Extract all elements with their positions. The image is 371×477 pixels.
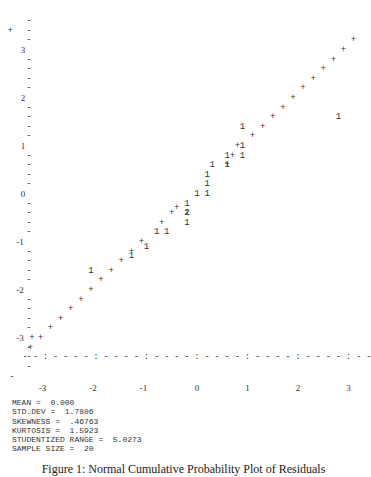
reference-plus-marker: + — [341, 46, 346, 55]
stat-skewness: SKEWNESS = .46763 — [12, 417, 142, 426]
y-tick-mark: - — [26, 26, 31, 35]
reference-plus-marker: + — [28, 343, 33, 352]
y-tick-mark: - — [9, 373, 14, 382]
residual-point-marker: 1 — [88, 266, 93, 275]
x-axis-dash: - — [83, 353, 88, 362]
reference-plus-marker: + — [300, 84, 305, 93]
x-axis-dash: - — [366, 353, 371, 362]
residual-point-marker: 1 — [154, 228, 159, 237]
y-tick-mark: - — [26, 314, 31, 323]
residual-point-marker: 1 — [204, 180, 209, 189]
x-axis-dash: - — [53, 353, 58, 362]
y-tick-mark: - — [26, 132, 31, 141]
y-tick-mark: - — [26, 209, 31, 218]
y-tick-mark: - — [26, 161, 31, 170]
reference-plus-marker: + — [29, 334, 34, 343]
reference-plus-marker: + — [7, 26, 12, 35]
residual-point-marker: 1 — [240, 122, 245, 131]
stat-kurtosis: KURTOSIS = 1.5923 — [12, 426, 142, 435]
x-axis-dash: - — [73, 353, 78, 362]
reference-plus-marker: + — [78, 295, 83, 304]
x-axis-dash: - — [285, 353, 290, 362]
x-axis-dash: - — [113, 353, 118, 362]
stat-std-dev: STD.DEV = 1.7806 — [12, 407, 142, 416]
x-axis-dash: - — [174, 353, 179, 362]
residual-point-marker: 1 — [225, 151, 230, 160]
reference-plus-marker: + — [260, 122, 265, 131]
stat-studentized-range: STUDENTIZED RANGE = 5.0273 — [12, 435, 142, 444]
y-tick-mark: - — [26, 228, 31, 237]
stat-mean: MEAN = 0.000 — [12, 398, 142, 407]
reference-plus-marker: + — [230, 151, 235, 160]
x-axis-dash: - — [33, 353, 38, 362]
x-axis-dash: - — [23, 353, 28, 362]
y-tick-mark: - — [26, 74, 31, 83]
x-tick-label: 3 — [346, 383, 351, 393]
y-tick-mark: - — [26, 113, 31, 122]
y-tick-mark: - — [26, 199, 31, 208]
x-axis-dash: - — [103, 353, 108, 362]
residual-point-marker: 1 — [184, 218, 189, 227]
x-axis-dash: - — [356, 353, 361, 362]
reference-plus-marker: + — [88, 286, 93, 295]
residual-point-marker: 1 — [336, 113, 341, 122]
reference-plus-marker: + — [58, 314, 63, 323]
summary-statistics: MEAN = 0.000 STD.DEV = 1.7806 SKEWNESS =… — [12, 398, 142, 454]
y-tick-mark: - — [26, 65, 31, 74]
x-axis-dash: - — [154, 353, 159, 362]
reference-plus-marker: + — [48, 324, 53, 333]
reference-plus-marker: + — [119, 257, 124, 266]
x-tick-mark: : — [346, 353, 351, 362]
reference-plus-marker: + — [331, 55, 336, 64]
residual-point-marker: 1 — [204, 190, 209, 199]
reference-plus-marker: + — [310, 74, 315, 83]
y-tick-mark: - — [26, 247, 31, 256]
reference-plus-marker: + — [351, 36, 356, 45]
x-tick-mark: : — [194, 353, 199, 362]
residual-point-marker: 1 — [144, 242, 149, 251]
reference-plus-marker: + — [280, 103, 285, 112]
y-tick-mark: - — [26, 55, 31, 64]
reference-plus-marker: + — [270, 113, 275, 122]
x-axis-dash: - — [326, 353, 331, 362]
x-axis-dash: - — [255, 353, 260, 362]
x-tick-mark: : — [93, 353, 98, 362]
x-axis-dash: - — [315, 353, 320, 362]
y-tick-mark: - — [26, 36, 31, 45]
residual-point-marker: 1 — [129, 252, 134, 261]
reference-plus-marker: + — [98, 276, 103, 285]
reference-plus-marker: + — [250, 132, 255, 141]
x-tick-label: -2 — [89, 383, 97, 393]
x-tick-label: -3 — [39, 383, 47, 393]
y-tick-mark: - — [26, 218, 31, 227]
x-axis-dash: - — [184, 353, 189, 362]
residual-point-marker: 1 — [240, 151, 245, 160]
y-tick-mark: - — [26, 362, 31, 371]
x-axis-dash: - — [235, 353, 240, 362]
y-tick-label: -3 — [16, 333, 24, 343]
residual-point-marker: 1 — [240, 142, 245, 151]
y-tick-label: -2 — [16, 285, 24, 295]
x-axis-dash: - — [214, 353, 219, 362]
residual-point-marker: 1 — [164, 228, 169, 237]
x-axis-dash: - — [265, 353, 270, 362]
x-axis-dash: - — [336, 353, 341, 362]
x-tick-mark: : — [295, 353, 300, 362]
reference-plus-marker: + — [174, 204, 179, 213]
y-tick-mark: - — [26, 17, 31, 26]
x-axis-dash: - — [204, 353, 209, 362]
y-tick-mark: - — [26, 266, 31, 275]
reference-plus-marker: + — [108, 266, 113, 275]
x-axis-dash: - — [305, 353, 310, 362]
y-tick-mark: - — [26, 180, 31, 189]
x-axis-dash: - — [275, 353, 280, 362]
stat-sample-size: SAMPLE SIZE = 20 — [12, 444, 142, 453]
y-tick-mark: - — [26, 276, 31, 285]
x-axis-dash: - — [164, 353, 169, 362]
reference-plus-marker: + — [68, 305, 73, 314]
y-tick-mark: - — [26, 305, 31, 314]
figure-caption: Figure 1: Normal Cumulative Probability … — [0, 462, 367, 477]
x-tick-mark: : — [144, 353, 149, 362]
y-tick-mark: - — [26, 103, 31, 112]
x-tick-label: -1 — [140, 383, 148, 393]
